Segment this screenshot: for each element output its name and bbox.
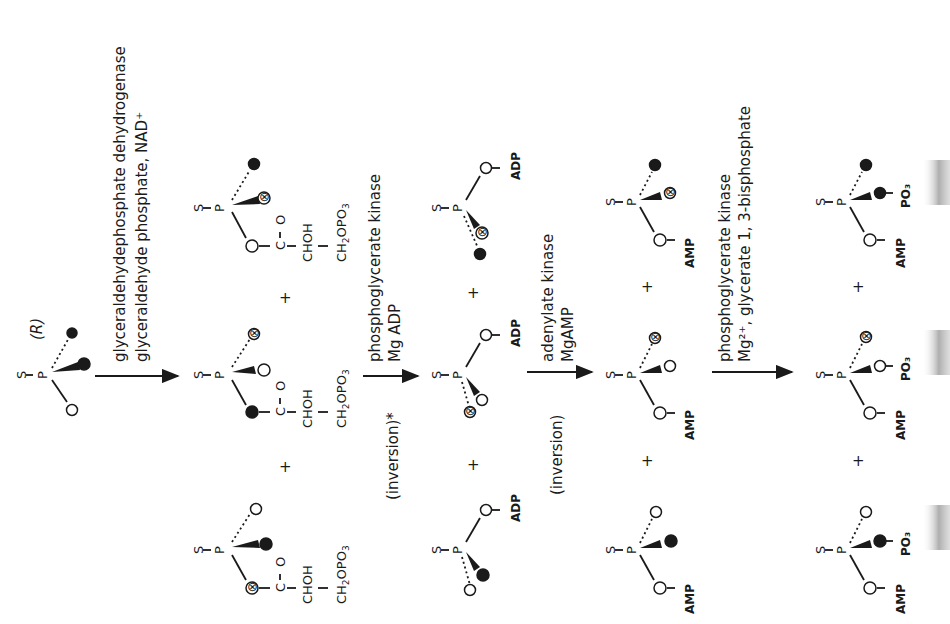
svg-text:⊗: ⊗ — [477, 224, 488, 239]
step3-enzyme-label: adenylate kinase — [539, 234, 557, 362]
step1-cofactor-label: glyceraldehyde phosphate, NAD⁺ — [133, 112, 151, 362]
svg-text:P: P — [450, 371, 465, 379]
configuration-label: (R) — [28, 318, 46, 340]
plus-sign: + — [467, 284, 480, 302]
plus-sign: + — [279, 458, 292, 476]
svg-text:CH2OPO3: CH2OPO3 — [334, 203, 351, 262]
svg-text:P: P — [212, 371, 227, 379]
plus-sign: + — [279, 289, 292, 307]
svg-text:PO₃: PO₃ — [899, 184, 913, 208]
svg-text:O: O — [273, 557, 288, 567]
svg-text:P: P — [624, 371, 639, 379]
amp-po3-thiophosphate-top: S P PO₃ AMP — [813, 160, 950, 269]
svg-text:P: P — [212, 204, 227, 212]
svg-text:P: P — [212, 546, 227, 554]
step2-enzyme-label: phosphoglycerate kinase — [366, 174, 384, 362]
svg-text:⊗: ⊗ — [249, 325, 260, 340]
svg-text:⊗: ⊗ — [465, 403, 476, 418]
svg-text:⊗: ⊗ — [259, 189, 270, 204]
svg-text:CHOH: CHOH — [300, 565, 315, 604]
svg-text:ADP: ADP — [509, 494, 523, 522]
svg-text:C: C — [273, 407, 288, 416]
starting-thiophosphate: S P — [14, 328, 90, 416]
svg-text:P: P — [624, 546, 639, 554]
svg-text:P: P — [834, 198, 849, 206]
svg-text:C: C — [273, 583, 288, 592]
acyl-thiophosphate-top: S P ⊗ C O CHOH CH2OPO3 — [191, 159, 351, 263]
amp-thiophosphate-middle: S P ⊗ AMP — [603, 329, 697, 440]
step4-cofactor-label: Mg²⁺, glycerate 1, 3-bisphosphate — [736, 106, 754, 362]
acyl-thiophosphate-bottom: S P ⊗ C O CHOH CH2OPO3 — [191, 504, 351, 605]
svg-text:⊗: ⊗ — [650, 329, 661, 344]
plus-sign: + — [467, 456, 480, 474]
svg-text:AMP: AMP — [683, 410, 697, 440]
svg-text:AMP: AMP — [683, 584, 697, 614]
amp-po3-thiophosphate-middle: S P ⊗ PO₃ AMP — [813, 328, 950, 440]
svg-text:P: P — [624, 198, 639, 206]
svg-text:PO₃: PO₃ — [899, 532, 913, 556]
svg-text:P: P — [834, 546, 849, 554]
plus-sign: + — [641, 452, 654, 470]
svg-text:O: O — [273, 381, 288, 391]
svg-text:AMP: AMP — [683, 238, 697, 268]
plus-sign: + — [852, 278, 865, 296]
amp-po3-thiophosphate-bottom: S P PO₃ AMP — [813, 505, 950, 614]
acyl-thiophosphate-middle: S P ⊗ C O CHOH CH2OPO3 — [191, 325, 351, 428]
svg-text:⊗: ⊗ — [665, 184, 676, 199]
svg-text:CHOH: CHOH — [300, 223, 315, 262]
plus-sign: + — [641, 278, 654, 296]
reaction-scheme-diagram: (R) S P glyceraldehydephosphate dehydrog… — [0, 0, 950, 624]
svg-text:ADP: ADP — [509, 319, 523, 347]
svg-text:AMP: AMP — [894, 584, 908, 614]
adp-thiophosphate-top: S P ADP ⊗ — [429, 152, 523, 260]
amp-thiophosphate-top: S P ⊗ AMP — [603, 160, 697, 269]
step2-cofactor-label: Mg ADP — [386, 304, 404, 362]
svg-text:P: P — [35, 371, 50, 379]
svg-text:P: P — [450, 204, 465, 212]
svg-text:ADP: ADP — [509, 152, 523, 180]
svg-text:P: P — [834, 371, 849, 379]
step3-cofactor-label: MgAMP — [559, 307, 577, 362]
adp-thiophosphate-middle: S P ADP ⊗ — [429, 319, 523, 418]
amp-thiophosphate-bottom: S P AMP — [603, 507, 697, 615]
svg-text:CH2OPO3: CH2OPO3 — [334, 545, 351, 604]
svg-text:P: P — [450, 546, 465, 554]
svg-text:CHOH: CHOH — [300, 389, 315, 428]
step2-inversion-note: (inversion)* — [384, 412, 402, 500]
svg-text:CH2OPO3: CH2OPO3 — [334, 369, 351, 428]
svg-text:O: O — [273, 215, 288, 225]
adp-thiophosphate-bottom: S P ADP — [429, 494, 523, 596]
svg-text:⊗: ⊗ — [861, 328, 872, 343]
svg-text:AMP: AMP — [894, 238, 908, 268]
svg-text:PO₃: PO₃ — [899, 357, 913, 381]
step3-inversion-note: (inversion) — [548, 415, 566, 495]
svg-text:AMP: AMP — [894, 410, 908, 440]
step4-enzyme-label: phosphoglycerate kinase — [716, 174, 734, 362]
svg-text:⊗: ⊗ — [247, 579, 258, 594]
plus-sign: + — [852, 452, 865, 470]
svg-text:C: C — [273, 241, 288, 250]
step1-enzyme-label: glyceraldehydephosphate dehydrogenase — [111, 46, 129, 362]
